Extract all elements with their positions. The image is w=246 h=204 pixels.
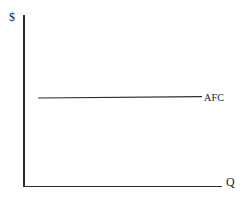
y-axis-label: $ [9, 12, 15, 23]
chart-figure: $ Q AFC [0, 0, 246, 204]
x-axis-label: Q [226, 177, 235, 188]
afc-curve [38, 97, 202, 98]
axes-group [23, 15, 222, 187]
series-group [38, 97, 202, 98]
afc-curve-label: AFC [204, 92, 224, 103]
